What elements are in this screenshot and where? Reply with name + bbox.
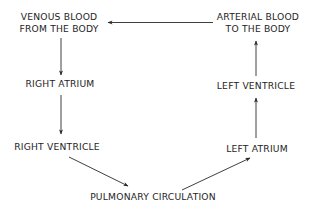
node-arterial-line1: ARTERIAL BLOOD [217, 11, 299, 23]
node-left-ventricle-label: LEFT VENTRICLE [217, 80, 295, 92]
arrow-pulmonary-to-left-atrium [182, 158, 250, 190]
node-arterial-line2: TO THE BODY [217, 23, 299, 35]
node-left-atrium: LEFT ATRIUM [226, 143, 288, 155]
node-right-atrium: RIGHT ATRIUM [26, 78, 95, 90]
node-venous-line1: VENOUS BLOOD [19, 11, 98, 23]
node-pulmonary-circulation: PULMONARY CIRCULATION [90, 191, 216, 203]
node-left-atrium-label: LEFT ATRIUM [226, 143, 288, 155]
circulation-diagram: VENOUS BLOOD FROM THE BODY ARTERIAL BLOO… [0, 0, 310, 210]
node-arterial-blood: ARTERIAL BLOOD TO THE BODY [217, 11, 299, 35]
node-right-atrium-label: RIGHT ATRIUM [26, 78, 95, 90]
arrow-right-ventricle-to-pulmonary [69, 157, 128, 186]
node-pulmonary-label: PULMONARY CIRCULATION [90, 191, 216, 203]
node-venous-line2: FROM THE BODY [19, 23, 98, 35]
node-right-ventricle-label: RIGHT VENTRICLE [14, 141, 100, 153]
node-right-ventricle: RIGHT VENTRICLE [14, 141, 100, 153]
node-left-ventricle: LEFT VENTRICLE [217, 80, 295, 92]
node-venous-blood: VENOUS BLOOD FROM THE BODY [19, 11, 98, 35]
